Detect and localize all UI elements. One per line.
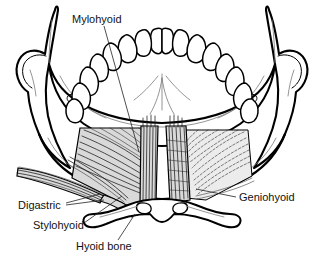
hyoid-lesser-horn-left — [136, 203, 151, 214]
anatomy-figure: Mylohyoid Geniohyoid Digastric Stylohyoi… — [0, 0, 324, 261]
label-mylohyoid: Mylohyoid — [72, 13, 122, 25]
tooth — [66, 99, 83, 123]
anatomy-diagram-svg: Mylohyoid Geniohyoid Digastric Stylohyoi… — [0, 0, 324, 261]
tooth — [241, 99, 258, 123]
symphysis-ridge-4 — [166, 76, 190, 100]
mylohyoid-right-sheet — [186, 130, 252, 200]
hyoid-lesser-horn-right — [173, 203, 188, 214]
label-digastric: Digastric — [18, 199, 61, 211]
symphysis-ridge-3 — [134, 76, 158, 100]
label-stylohyoid: Stylohyoid — [33, 219, 84, 231]
label-geniohyoid: Geniohyoid — [239, 191, 295, 203]
tooth — [150, 28, 162, 53]
tooth — [162, 28, 174, 53]
label-hyoid-bone: Hyoid bone — [76, 240, 132, 252]
